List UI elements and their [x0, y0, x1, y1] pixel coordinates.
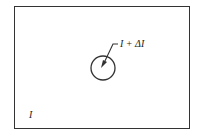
inner-region-circle: [91, 56, 115, 80]
arrowhead-icon: [101, 60, 107, 68]
pointer-arrow-icon: [104, 44, 118, 63]
inner-region-label: I + ΔI: [120, 39, 144, 49]
outer-region-label: I: [29, 110, 32, 120]
